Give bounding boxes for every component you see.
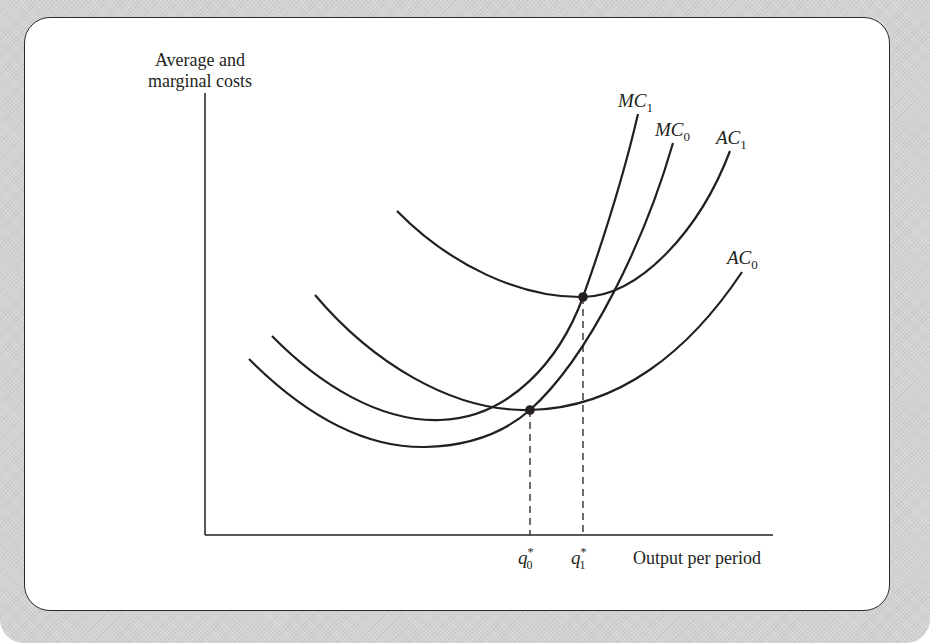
label-mc1: MC1 (617, 90, 653, 115)
label-mc0: MC0 (654, 119, 690, 144)
tick-label-q0-star: q*0 (518, 545, 534, 572)
point-ac1-min (578, 292, 588, 302)
curve-ac1 (397, 151, 730, 297)
curve-mc0 (249, 143, 673, 447)
point-ac0-min (525, 405, 535, 415)
curve-ac0 (315, 272, 742, 410)
y-axis-label-line1: Average and (155, 50, 245, 70)
cost-curves-diagram: Average and marginal costs Output per pe… (0, 0, 930, 643)
label-ac0: AC0 (725, 247, 758, 272)
y-axis-label-line2: marginal costs (148, 71, 252, 91)
label-ac1: AC1 (714, 127, 747, 152)
tick-label-q1-star: q*1 (571, 545, 587, 572)
x-axis-label: Output per period (633, 548, 761, 568)
